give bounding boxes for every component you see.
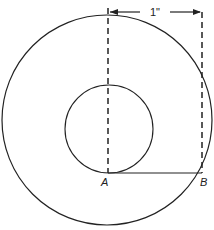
dimension-label: 1" xyxy=(150,6,160,18)
outer-circle xyxy=(2,15,212,225)
inner-circle xyxy=(65,85,153,173)
point-a-label: A xyxy=(100,176,108,188)
point-b-label: B xyxy=(200,176,207,188)
circles-diagram: 1" A B xyxy=(0,0,214,230)
